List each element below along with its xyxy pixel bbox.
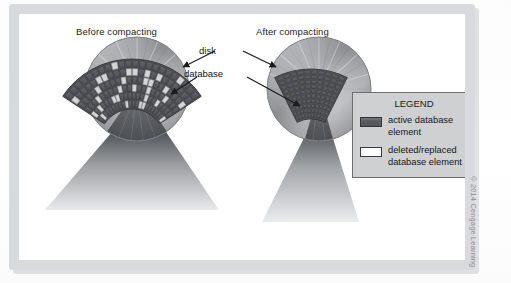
legend-item-active: active database element — [360, 115, 465, 138]
illustration-canvas: Before compacting After compacting — [19, 14, 465, 260]
legend-label-deleted: deleted/replaced database element — [388, 145, 465, 168]
legend-title: LEGEND — [353, 98, 465, 109]
legend-swatch-active-icon — [360, 117, 382, 127]
legend-label-active: active database element — [388, 115, 465, 138]
figure-container: Before compacting After compacting — [0, 0, 511, 283]
callout-label-database: database — [184, 68, 223, 79]
legend-box: LEGEND active database element deleted/r… — [352, 92, 465, 178]
callout-label-disk: disk — [199, 45, 216, 56]
legend-swatch-deleted-icon — [360, 147, 382, 157]
before-expansion-cone — [45, 132, 219, 210]
after-expansion-cone — [262, 132, 359, 222]
copyright-credit: © 2014 Cengage Learning — [469, 176, 478, 276]
legend-item-deleted: deleted/replaced database element — [360, 145, 465, 168]
